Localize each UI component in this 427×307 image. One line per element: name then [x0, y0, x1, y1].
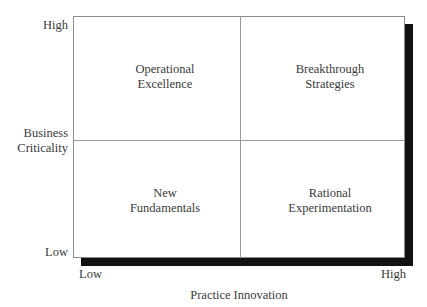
y-axis-tick-low: Low	[0, 245, 68, 259]
y-axis-title: Business Criticality	[0, 126, 68, 156]
quadrant-label-breakthrough-strategies: Breakthrough Strategies	[255, 62, 405, 92]
quadrant-label-operational-excellence: Operational Excellence	[90, 62, 240, 92]
x-axis-tick-low: Low	[79, 267, 102, 281]
quadrant-label-new-fundamentals: New Fundamentals	[90, 186, 240, 216]
quadrant-label-line-2: Excellence	[90, 77, 240, 92]
y-axis-title-line-1: Business	[0, 126, 68, 141]
quadrant-label-line-2: Experimentation	[255, 201, 405, 216]
quadrant-label-line-2: Fundamentals	[90, 201, 240, 216]
quadrant-label-line-1: Breakthrough	[255, 62, 405, 77]
quadrant-label-line-1: Operational	[90, 62, 240, 77]
quadrant-label-line-1: Rational	[255, 186, 405, 201]
quadrant-label-line-2: Strategies	[255, 77, 405, 92]
quadrant-divider-horizontal	[73, 140, 405, 141]
plot-box	[73, 16, 405, 258]
quadrant-label-rational-experimentation: Rational Experimentation	[255, 186, 405, 216]
quadrant-label-line-1: New	[90, 186, 240, 201]
x-axis-tick-high: High	[345, 267, 406, 281]
quadrant-divider-vertical	[240, 16, 241, 258]
y-axis-tick-high: High	[0, 18, 68, 32]
two-by-two-matrix-figure: Operational Excellence Breakthrough Stra…	[0, 0, 427, 307]
y-axis-title-line-2: Criticality	[0, 141, 68, 156]
x-axis-title: Practice Innovation	[73, 288, 405, 303]
